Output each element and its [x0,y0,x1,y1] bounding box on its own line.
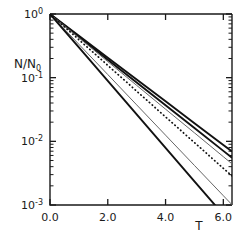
x-tick-label: 6.0 [215,211,233,224]
chart-figure: 10010-110-210-3 0.02.04.06.0 N/N0 T [0,0,244,244]
x-tick-label: 4.0 [157,211,175,224]
x-axis-title: T [194,219,203,233]
plot-background [0,0,244,244]
x-tick-label: 0.0 [41,211,59,224]
x-tick-label: 2.0 [99,211,117,224]
semilog-decay-plot: 10010-110-210-3 0.02.04.06.0 N/N0 T [0,0,244,244]
